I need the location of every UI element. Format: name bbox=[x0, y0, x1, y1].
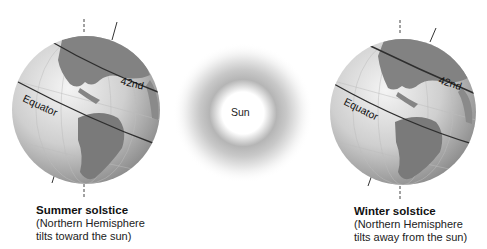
caption-line: tilts toward the sun) bbox=[36, 230, 145, 243]
caption-line: (Northern Hemisphere bbox=[36, 217, 145, 230]
sun-label: Sun bbox=[231, 106, 250, 118]
summer-solstice-caption: Summer solstice (Northern Hemisphere til… bbox=[36, 204, 145, 243]
caption-title: Winter solstice bbox=[354, 205, 467, 218]
caption-line: tilts away from the sun) bbox=[354, 231, 467, 244]
winter-solstice-caption: Winter solstice (Northern Hemisphere til… bbox=[354, 205, 467, 244]
caption-line: (Northern Hemisphere bbox=[354, 218, 467, 231]
caption-title: Summer solstice bbox=[36, 204, 145, 217]
